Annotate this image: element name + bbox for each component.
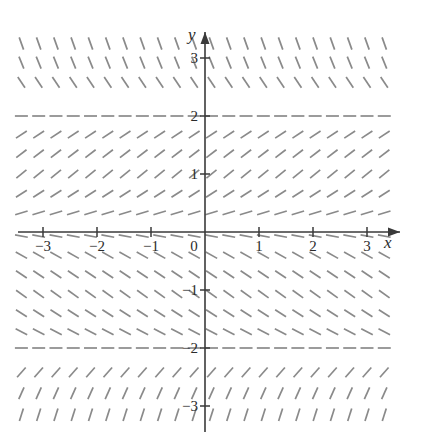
slope-segment [171, 190, 182, 197]
slope-segment [85, 329, 97, 335]
slope-segment [102, 131, 113, 138]
slope-segment [52, 368, 61, 378]
slope-segment [68, 252, 79, 258]
slope-segment [156, 77, 163, 88]
slope-segment [67, 211, 79, 215]
slope-segment [275, 252, 286, 258]
slope-segment [344, 190, 355, 197]
slope-segment [241, 170, 251, 178]
slope-segment [50, 329, 62, 335]
slope-segment [347, 57, 352, 69]
slope-segment [241, 310, 252, 317]
slope-segment [137, 150, 147, 158]
slope-segment [188, 235, 201, 237]
slope-segment [277, 77, 284, 88]
slope-field-figure: −3−2−10123321−1−2−3 x y [0, 0, 423, 445]
slope-segment [136, 211, 148, 215]
slope-segment [19, 387, 24, 399]
slope-segment [379, 170, 389, 178]
slope-segment [309, 329, 321, 335]
slope-segment [224, 150, 234, 158]
slope-segment [68, 190, 79, 197]
slope-segment [16, 190, 27, 197]
slope-segment [189, 190, 200, 197]
slope-segment [35, 77, 42, 88]
slope-segment [19, 37, 23, 49]
slope-segment [330, 37, 334, 49]
x-tick-label: −3 [35, 238, 51, 254]
slope-segment [327, 150, 337, 158]
y-tick-label: −3 [182, 398, 198, 414]
slope-segment [18, 77, 25, 88]
slope-segment [138, 368, 147, 378]
slope-segment [121, 77, 128, 88]
slope-segment [34, 368, 43, 378]
slope-segment [344, 252, 355, 258]
slope-segment [209, 37, 213, 49]
slope-segment [33, 290, 44, 298]
slope-segment [105, 57, 110, 69]
slope-segment [292, 271, 303, 278]
slope-segment [120, 150, 130, 158]
slope-segment [102, 190, 113, 197]
slope-segment [155, 368, 164, 378]
slope-segment [378, 211, 390, 215]
slope-segment [295, 57, 300, 69]
slope-segment [68, 131, 79, 138]
slope-segment [243, 387, 248, 399]
slope-segment [85, 131, 96, 138]
slope-segment [155, 170, 165, 178]
slope-segment [361, 329, 373, 335]
slope-segment [123, 57, 128, 69]
slope-segment [327, 271, 338, 278]
slope-segment [206, 190, 217, 197]
slope-segment [276, 170, 286, 178]
slope-segment [154, 310, 165, 317]
slope-segment [71, 387, 76, 399]
slope-segment [15, 211, 27, 215]
slope-segment [205, 211, 217, 215]
slope-segment [365, 57, 370, 69]
slope-segment [327, 131, 338, 138]
slope-segment [241, 271, 252, 278]
slope-segment [365, 37, 369, 49]
slope-segment [137, 170, 147, 178]
slope-segment [330, 387, 335, 399]
slope-segment [379, 252, 390, 258]
slope-segment [240, 329, 252, 335]
slope-segment [85, 271, 96, 278]
slope-segment [347, 387, 352, 399]
slope-segment [102, 310, 113, 317]
slope-segment [171, 252, 182, 258]
slope-segment [33, 329, 45, 335]
slope-segment [34, 150, 44, 158]
slope-segment [275, 310, 286, 317]
slope-segment [380, 368, 389, 378]
slope-segment [310, 310, 321, 317]
slope-segment [311, 368, 320, 378]
slope-segment [310, 150, 320, 158]
slope-segment [382, 387, 387, 399]
slope-segment [345, 368, 354, 378]
slope-segment [330, 409, 334, 421]
slope-segment [173, 368, 182, 378]
slope-segment [241, 290, 252, 298]
slope-segment [261, 387, 266, 399]
slope-segment [274, 235, 287, 237]
slope-segment [226, 57, 231, 69]
slope-segment [120, 271, 131, 278]
y-axis-arrowhead [201, 32, 210, 44]
slope-segment [84, 211, 96, 215]
slope-segment [16, 329, 28, 335]
slope-segment [86, 368, 95, 378]
slope-segment [137, 310, 148, 317]
slope-segment [120, 310, 131, 317]
slope-segment [16, 310, 27, 317]
slope-segment [223, 329, 235, 335]
slope-segment [154, 271, 165, 278]
slope-segment [258, 150, 268, 158]
slope-segment [206, 150, 216, 158]
direction-field-segments [15, 37, 391, 421]
slope-segment [344, 211, 356, 215]
slope-segment [362, 131, 373, 138]
